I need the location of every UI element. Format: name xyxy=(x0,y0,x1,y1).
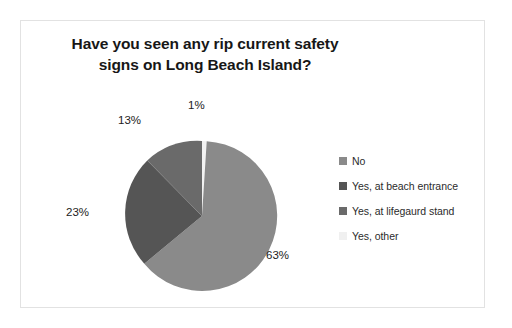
pie-label-no: 63% xyxy=(266,249,289,261)
legend-label-yes-other: Yes, other xyxy=(352,230,398,242)
legend-item-yes-beach-entrance[interactable]: Yes, at beach entrance xyxy=(339,176,479,196)
chart-title-line-2: signs on Long Beach Island? xyxy=(35,54,375,75)
legend-swatch-icon-no xyxy=(339,157,347,165)
legend-label-yes-beach-entrance: Yes, at beach entrance xyxy=(352,180,458,192)
legend-label-yes-lifeguard-stand: Yes, at lifegaurd stand xyxy=(352,205,454,217)
legend-item-no[interactable]: No xyxy=(339,151,479,171)
chart-frame: Have you seen any rip current safety sig… xyxy=(20,20,485,308)
chart-title-line-1: Have you seen any rip current safety xyxy=(35,33,375,54)
legend-label-no: No xyxy=(352,155,365,167)
pie-graphic xyxy=(88,101,318,301)
pie-label-yes-lifeguard-stand: 13% xyxy=(118,114,141,126)
chart-legend: No Yes, at beach entrance Yes, at lifega… xyxy=(339,151,479,251)
pie-label-yes-other: 1% xyxy=(188,99,205,111)
legend-swatch-icon-yes-lifeguard-stand xyxy=(339,207,347,215)
legend-swatch-icon-yes-beach-entrance xyxy=(339,182,347,190)
legend-item-yes-other[interactable]: Yes, other xyxy=(339,226,479,246)
legend-swatch-icon-yes-other xyxy=(339,232,347,240)
chart-title: Have you seen any rip current safety sig… xyxy=(35,33,375,76)
pie-label-yes-beach-entrance: 23% xyxy=(66,206,89,218)
pie-chart: 1% 13% 23% 63% xyxy=(88,101,318,301)
legend-item-yes-lifeguard-stand[interactable]: Yes, at lifegaurd stand xyxy=(339,201,479,221)
